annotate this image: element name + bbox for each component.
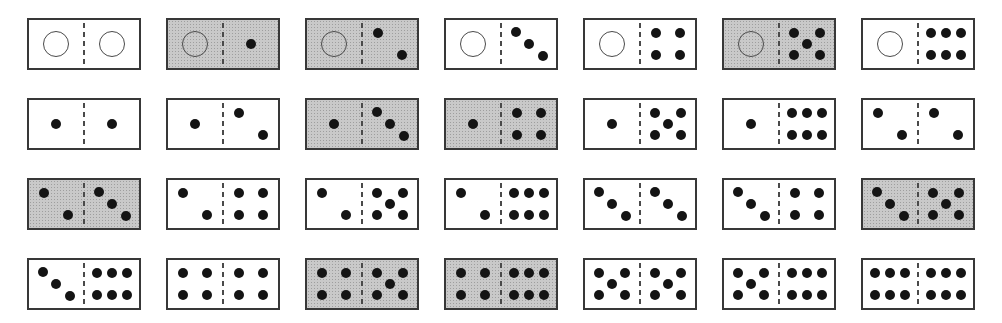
pip-dot: [651, 50, 661, 60]
domino-right-half: [85, 20, 139, 68]
pip-dot: [372, 290, 382, 300]
domino-tile-1-4: [444, 98, 558, 150]
domino-tile-5-6: [722, 258, 836, 310]
pip-dot: [787, 268, 797, 278]
pip-dot: [341, 290, 351, 300]
pip-dot: [802, 290, 812, 300]
pip-dot: [814, 188, 824, 198]
pip-dot: [817, 130, 827, 140]
domino-right-half: [363, 180, 417, 228]
domino-tile-4-5: [305, 258, 419, 310]
pip-dot: [92, 290, 102, 300]
pip-dot: [650, 130, 660, 140]
domino-left-half: [585, 100, 639, 148]
pip-dot: [650, 108, 660, 118]
pip-dot: [814, 210, 824, 220]
domino-tile-3-5: [861, 178, 975, 230]
domino-left-half: [446, 100, 500, 148]
pip-dot: [538, 51, 548, 61]
pip-dot: [650, 268, 660, 278]
pip-dot: [926, 28, 936, 38]
pip-dot: [817, 290, 827, 300]
pip-dot: [760, 211, 770, 221]
domino-left-half: [863, 180, 917, 228]
domino-right-half: [224, 260, 278, 308]
pip-dot: [122, 268, 132, 278]
blank-circle: [599, 31, 625, 57]
pip-dot: [258, 268, 268, 278]
pip-dot: [733, 187, 743, 197]
domino-right-half: [502, 260, 556, 308]
pip-dot: [676, 290, 686, 300]
domino-left-half: [29, 180, 83, 228]
pip-dot: [373, 28, 383, 38]
pip-dot: [122, 290, 132, 300]
domino-right-half: [363, 260, 417, 308]
domino-right-half: [85, 260, 139, 308]
pip-dot: [872, 187, 882, 197]
pip-dot: [234, 188, 244, 198]
pip-dot: [511, 27, 521, 37]
pip-dot: [650, 290, 660, 300]
domino-right-half: [363, 20, 417, 68]
domino-right-half: [363, 100, 417, 148]
pip-dot: [509, 290, 519, 300]
pip-dot: [524, 210, 534, 220]
pip-dot: [398, 290, 408, 300]
domino-tile-6-6: [861, 258, 975, 310]
pip-dot: [63, 210, 73, 220]
pip-dot: [870, 290, 880, 300]
pip-dot: [317, 268, 327, 278]
pip-dot: [900, 268, 910, 278]
domino-right-half: [641, 180, 695, 228]
pip-dot: [202, 290, 212, 300]
pip-dot: [817, 108, 827, 118]
domino-tile-0-3: [444, 18, 558, 70]
domino-tile-2-6: [444, 178, 558, 230]
pip-dot: [512, 130, 522, 140]
domino-left-half: [446, 180, 500, 228]
pip-dot: [536, 130, 546, 140]
domino-tile-2-4: [166, 178, 280, 230]
pip-dot: [954, 210, 964, 220]
pip-dot: [954, 188, 964, 198]
pip-dot: [651, 28, 661, 38]
domino-left-half: [168, 260, 222, 308]
pip-dot: [607, 279, 617, 289]
pip-dot: [928, 188, 938, 198]
pip-dot: [202, 268, 212, 278]
domino-left-half: [446, 20, 500, 68]
pip-dot: [246, 39, 256, 49]
pip-dot: [456, 268, 466, 278]
pip-dot: [746, 199, 756, 209]
pip-dot: [107, 290, 117, 300]
domino-tile-4-6: [444, 258, 558, 310]
domino-tile-2-2: [861, 98, 975, 150]
pip-dot: [372, 210, 382, 220]
domino-tile-2-5: [305, 178, 419, 230]
domino-tile-1-6: [722, 98, 836, 150]
pip-dot: [398, 268, 408, 278]
pip-dot: [899, 211, 909, 221]
domino-tile-1-1: [27, 98, 141, 150]
domino-tile-3-3: [583, 178, 697, 230]
pip-dot: [956, 290, 966, 300]
blank-circle: [460, 31, 486, 57]
domino-right-half: [224, 100, 278, 148]
pip-dot: [676, 130, 686, 140]
pip-dot: [202, 210, 212, 220]
pip-dot: [385, 279, 395, 289]
pip-dot: [65, 291, 75, 301]
pip-dot: [926, 50, 936, 60]
pip-dot: [539, 210, 549, 220]
pip-dot: [107, 268, 117, 278]
domino-right-half: [919, 180, 973, 228]
pip-dot: [885, 268, 895, 278]
pip-dot: [178, 268, 188, 278]
blank-circle: [321, 31, 347, 57]
pip-dot: [802, 130, 812, 140]
blank-circle: [738, 31, 764, 57]
pip-dot: [398, 188, 408, 198]
pip-dot: [594, 187, 604, 197]
domino-right-half: [85, 180, 139, 228]
